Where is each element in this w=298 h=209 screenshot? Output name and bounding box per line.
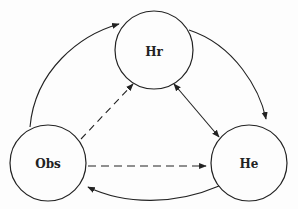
edge-obs-hr-dashed xyxy=(81,84,133,139)
edge-obs-hr-arc xyxy=(30,24,119,127)
diagram-svg xyxy=(0,0,298,209)
edge-hr-he-arc xyxy=(189,30,266,119)
node-he-label: He xyxy=(240,157,259,171)
diagram-canvas: Hr Obs He xyxy=(0,0,298,209)
edge-hr-he-bidirectional xyxy=(174,84,219,137)
node-obs-label: Obs xyxy=(35,157,61,171)
node-hr-label: Hr xyxy=(145,45,163,59)
edge-he-obs-arc xyxy=(88,186,219,200)
